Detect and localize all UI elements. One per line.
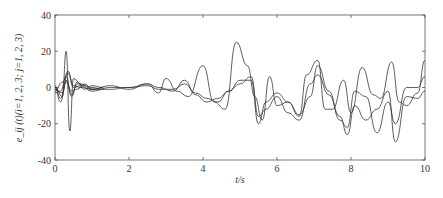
x-tick-label: 6	[275, 163, 280, 174]
x-tick-label: 0	[53, 163, 58, 174]
line-chart: 0246810-40-2002040 t/s e_ij (t)(i=1, 2, …	[0, 0, 443, 198]
y-tick-label: -40	[38, 155, 51, 166]
y-tick-label: -20	[38, 118, 51, 129]
y-tick-label: 20	[41, 46, 51, 57]
x-tick-label: 2	[127, 163, 132, 174]
data-series	[55, 42, 425, 142]
series-line-e_e	[55, 77, 103, 97]
series-line-e_b	[55, 73, 425, 142]
x-tick-label: 4	[201, 163, 206, 174]
y-tick-label: 40	[41, 10, 51, 21]
y-axis-label: e_ij (t)(i=1, 2, 3; j=1, 2, 3)	[13, 33, 25, 142]
x-tick-label: 8	[349, 163, 354, 174]
tick-labels: 0246810-40-2002040	[38, 10, 430, 175]
series-line-e_c	[55, 66, 425, 133]
x-axis-label: t/s	[235, 174, 245, 185]
y-tick-label: 0	[46, 82, 51, 93]
x-tick-label: 10	[420, 163, 430, 174]
